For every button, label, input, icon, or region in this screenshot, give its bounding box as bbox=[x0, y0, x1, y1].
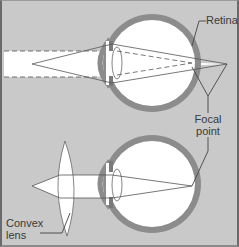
convex-label-line1: Convex bbox=[6, 217, 43, 229]
focal-point-label: Focal point bbox=[190, 113, 226, 137]
diagram-frame: Retina Focal point Convex lens bbox=[0, 0, 239, 247]
convex-lens-shape bbox=[58, 141, 74, 236]
top-eye-panel bbox=[4, 14, 227, 113]
bottom-eye-panel bbox=[32, 135, 208, 236]
convex-label-line2: lens bbox=[6, 229, 43, 241]
focal-label-line1: Focal bbox=[190, 113, 226, 125]
focal-label-line2: point bbox=[190, 125, 226, 137]
top-iris-lower bbox=[109, 76, 113, 86]
top-iris-upper bbox=[109, 41, 113, 51]
retina-label: Retina bbox=[206, 14, 238, 26]
bottom-iris-lower bbox=[109, 197, 113, 208]
convex-lens-label: Convex lens bbox=[6, 217, 43, 241]
bottom-iris-upper bbox=[109, 161, 113, 172]
